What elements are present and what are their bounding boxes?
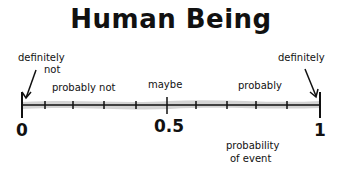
label-definitely: definitely [278,52,325,63]
axis-min-label: 0 [16,120,28,140]
axis-mid-label: 0.5 [154,116,184,136]
label-definitely-not-line1: definitely [18,52,65,63]
label-probably: probably [238,80,282,91]
label-maybe: maybe [148,79,182,90]
axis-caption-line1: probability [226,140,279,151]
label-probably-not: probably not [52,82,115,93]
axis-max-label: 1 [314,120,326,140]
axis-caption-line2: of event [230,153,271,164]
arrow-definitely-not-icon [26,70,36,98]
label-definitely-not-line2: not [44,64,60,75]
